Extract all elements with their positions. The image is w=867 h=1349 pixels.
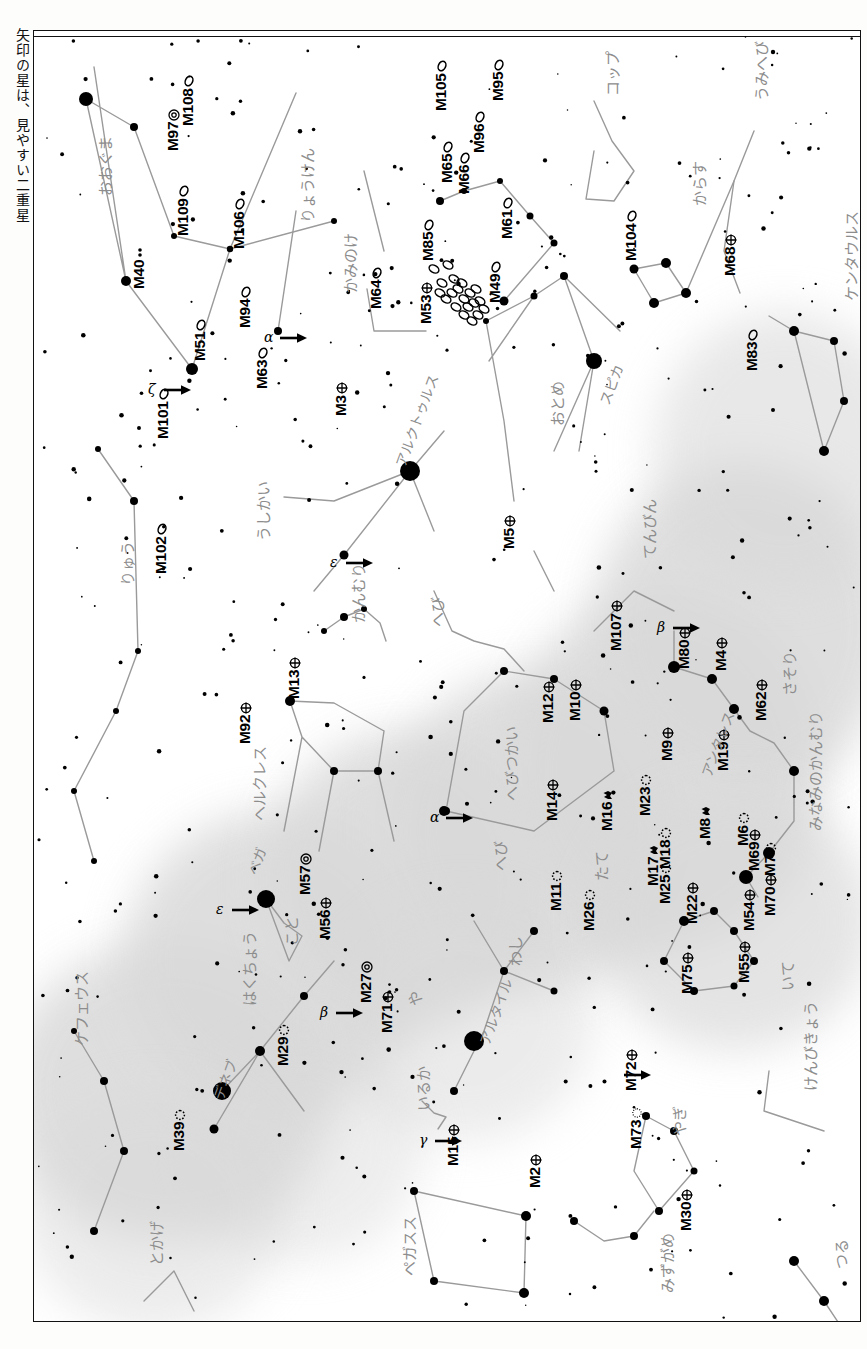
globular-symbol-icon: [755, 678, 769, 692]
messier-id: M51: [191, 332, 208, 361]
galaxy-symbol-icon: [422, 218, 436, 232]
galaxy-symbol-icon: [625, 209, 639, 223]
messier-label-m54: M54: [740, 888, 758, 931]
messier-label-m10: M10: [566, 678, 584, 721]
globular-symbol-icon: [743, 888, 757, 902]
constellation-label: かみのけ: [339, 233, 360, 293]
globular-symbol-icon: [610, 599, 624, 613]
double-star-marker: α: [278, 331, 308, 349]
constellation-label: たて: [590, 851, 611, 881]
messier-label-m107: M107: [607, 599, 625, 651]
globular-symbol-icon: [546, 778, 560, 792]
messier-label-m51: M51: [191, 318, 209, 361]
messier-label-m9: M9: [658, 726, 676, 761]
double-star-arrow-icon: [344, 556, 374, 570]
constellation-label: はくちょう: [238, 931, 259, 1006]
messier-id: M104: [622, 223, 639, 261]
messier-id: M63: [253, 360, 270, 389]
messier-label-m56: M56: [316, 896, 334, 939]
double-star-marker: β: [334, 1006, 364, 1024]
messier-label-m40: M40: [130, 246, 148, 289]
messier-label-m39: M39: [170, 1108, 188, 1151]
constellation-label: てんびん: [638, 499, 659, 559]
messier-label-m3: M3: [332, 381, 350, 416]
messier-id: M96: [470, 124, 487, 153]
globular-symbol-icon: [503, 514, 517, 528]
messier-id: M92: [236, 715, 253, 744]
greek-letter-label: α: [264, 329, 273, 345]
globular-symbol-icon: [625, 1048, 639, 1062]
galaxy-symbol-icon: [182, 74, 196, 88]
constellation-label: りょうけん: [296, 148, 317, 223]
messier-id: M4: [712, 650, 729, 671]
messier-label-m61: M61: [498, 196, 516, 239]
messier-label-m92: M92: [236, 701, 254, 744]
galaxy-symbol-icon: [233, 197, 247, 211]
messier-id: M109: [174, 198, 191, 236]
constellation-label: へび: [489, 841, 510, 871]
constellation-label: ペガスス: [398, 1216, 419, 1276]
messier-id: M9: [658, 740, 675, 761]
messier-id: M80: [675, 640, 692, 669]
messier-label-m49: M49: [486, 260, 504, 303]
planetary-symbol-icon: [299, 852, 313, 866]
greek-letter-label: α: [430, 809, 439, 825]
globular-symbol-icon: [764, 873, 778, 887]
messier-label-m5: M5: [500, 514, 518, 549]
messier-label-m23: M23: [636, 773, 654, 816]
open-symbol-icon: [764, 841, 778, 855]
messier-label-m55: M55: [735, 940, 753, 983]
messier-id: M10: [566, 692, 583, 721]
messier-id: M64: [367, 280, 384, 309]
messier-label-m85: M85: [419, 218, 437, 261]
messier-label-m12: M12: [539, 680, 557, 723]
messier-id: M53: [417, 295, 434, 324]
galaxy-symbol-icon: [370, 266, 384, 280]
messier-id: M55: [735, 954, 752, 983]
planetary-symbol-icon: [360, 960, 374, 974]
messier-label-m102: M102: [152, 522, 170, 574]
messier-label-m14: M14: [543, 778, 561, 821]
messier-id: M61: [498, 210, 515, 239]
constellation-label: つる: [830, 1239, 851, 1269]
double-star-arrow-icon: [622, 1068, 652, 1082]
messier-id: M23: [636, 787, 653, 816]
galaxy-symbol-icon: [458, 151, 472, 165]
greek-letter-label: β: [657, 619, 665, 635]
constellation-label: おおぐま: [94, 136, 115, 196]
messier-id: M54: [740, 902, 757, 931]
double-star-arrow-icon: [230, 903, 260, 917]
globular-symbol-icon: [569, 678, 583, 692]
messier-id: M2: [526, 1167, 543, 1188]
globular-symbol-icon: [542, 680, 556, 694]
messier-label-m69: M69: [745, 828, 763, 871]
globular-symbol-icon: [239, 701, 253, 715]
double-star-marker: γ: [433, 1134, 463, 1152]
constellation-label: ケンタウルス: [840, 211, 861, 301]
messier-label-m66: M66: [455, 151, 473, 194]
double-star-arrow-icon: [334, 1006, 364, 1020]
constellation-label: からす: [688, 161, 709, 206]
double-star-arrow-icon: [162, 383, 192, 397]
messier-id: M75: [678, 965, 695, 994]
messier-label-m13: M13: [285, 656, 303, 699]
messier-id: M16: [598, 802, 615, 831]
globular-symbol-icon: [724, 233, 738, 247]
nebula-symbol-icon: [699, 804, 713, 818]
star-chart-frame: M108M97M109M106M40M51M101M63M94M3M102M64…: [33, 30, 861, 1322]
greek-letter-label: γ: [419, 1132, 427, 1148]
globular-symbol-icon: [661, 726, 675, 740]
open-symbol-icon: [659, 861, 673, 875]
messier-label-m83: M83: [743, 328, 761, 371]
messier-label-m25: M25: [656, 861, 674, 904]
constellation-label: コップ: [601, 51, 622, 96]
messier-id: M56: [316, 910, 333, 939]
messier-label-m2: M2: [526, 1153, 544, 1188]
open-symbol-icon: [659, 826, 673, 840]
messier-label-m97: M97: [164, 108, 182, 151]
messier-id: M30: [677, 1202, 694, 1231]
messier-id: M70: [761, 887, 778, 916]
messier-id: M101: [154, 401, 171, 439]
globular-symbol-icon: [381, 990, 395, 1004]
double-star-marker: β: [671, 621, 701, 639]
